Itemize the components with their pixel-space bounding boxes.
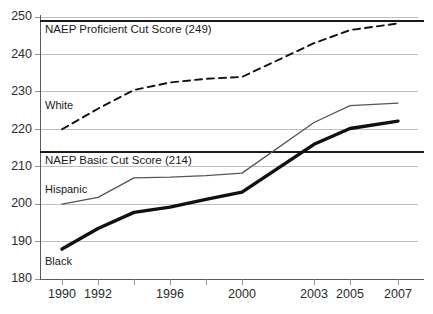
xtick-1990: 1990 xyxy=(48,287,76,301)
ytick-220: 220 xyxy=(11,122,32,136)
plot-area-background xyxy=(40,17,418,279)
ytick-240: 240 xyxy=(11,47,32,61)
series-label-white: White xyxy=(45,99,73,111)
y-axis-labels: 250 240 230 220 210 200 190 180 xyxy=(11,9,32,285)
xtick-1996: 1996 xyxy=(156,287,184,301)
xtick-2000: 2000 xyxy=(228,287,256,301)
chart-canvas: 250 240 230 220 210 200 190 180 1990 199… xyxy=(0,0,433,314)
ytick-190: 190 xyxy=(11,234,32,248)
x-axis-labels: 1990 1992 1996 2000 2003 2005 2007 xyxy=(48,287,412,301)
xtick-2007: 2007 xyxy=(384,287,412,301)
y-axis-tickmarks xyxy=(35,17,40,279)
naep-score-chart: 250 240 230 220 210 200 190 180 1990 199… xyxy=(0,0,433,314)
series-label-black: Black xyxy=(45,255,72,267)
ytick-230: 230 xyxy=(11,84,32,98)
reference-label-proficient: NAEP Proficient Cut Score (249) xyxy=(45,23,212,35)
xtick-1992: 1992 xyxy=(84,287,112,301)
xtick-2005: 2005 xyxy=(336,287,364,301)
ytick-180: 180 xyxy=(11,271,32,285)
xtick-2003: 2003 xyxy=(300,287,328,301)
reference-label-basic: NAEP Basic Cut Score (214) xyxy=(45,154,192,166)
ytick-250: 250 xyxy=(11,9,32,23)
ytick-200: 200 xyxy=(11,196,32,210)
ytick-210: 210 xyxy=(11,159,32,173)
series-label-hispanic: Hispanic xyxy=(45,183,88,195)
